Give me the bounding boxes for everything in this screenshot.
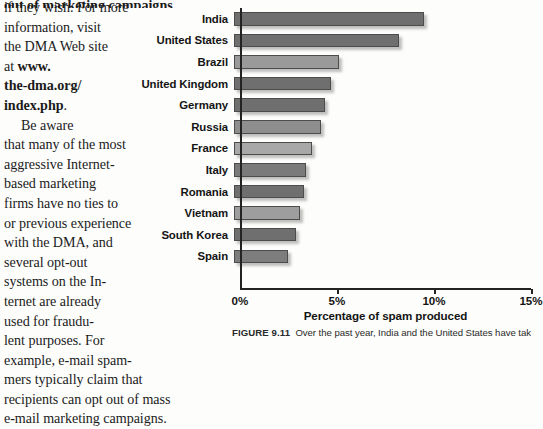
bar-track (234, 8, 531, 30)
bar-track (234, 94, 531, 116)
body-text-line: lent purposes. For (4, 331, 228, 351)
chart-bar-row: Romania (126, 181, 531, 203)
bar-track (234, 246, 531, 268)
chart-bar-row: Vietnam (126, 202, 531, 224)
chart-bar-row: France (126, 138, 531, 160)
x-axis-tick-label: 15% (519, 294, 542, 307)
bar (234, 163, 306, 177)
chart-bar-row: United Kingdom (126, 73, 531, 95)
bar (234, 98, 325, 112)
bar-track (234, 202, 531, 224)
bar-category-label: France (126, 142, 234, 154)
bar (234, 228, 296, 242)
x-axis-tick-label: 5% (329, 294, 346, 307)
chart-bar-row: Spain (126, 246, 531, 268)
bar-category-label: United States (126, 34, 234, 46)
bar-track (234, 116, 531, 138)
bar-track (234, 73, 531, 95)
bar (234, 142, 312, 156)
bar (234, 12, 424, 26)
bar-category-label: Vietnam (126, 207, 234, 219)
chart-bar-row: India (126, 8, 531, 30)
chart-bar-row: South Korea (126, 224, 531, 246)
x-axis-tick-label: 10% (422, 294, 445, 307)
bar (234, 77, 331, 91)
bar (234, 55, 339, 69)
bar-category-label: Italy (126, 164, 234, 176)
bar-category-label: Germany (126, 99, 234, 111)
bar (234, 206, 300, 220)
chart-bar-row: Italy (126, 159, 531, 181)
body-text-bold: www. (18, 58, 51, 74)
chart-bar-row: Russia (126, 116, 531, 138)
bar (234, 185, 304, 199)
bar-track (234, 181, 531, 203)
bar (234, 34, 399, 48)
body-text-line: e-mail marketing campaigns. (4, 409, 228, 429)
x-axis-tick-label: 0% (232, 294, 249, 307)
bar-track (234, 224, 531, 246)
bar-track (234, 138, 531, 160)
chart-bar-row: Germany (126, 94, 531, 116)
chart-rows: IndiaUnited StatesBrazilUnited KingdomGe… (126, 8, 531, 267)
bar-track (234, 51, 531, 73)
bar (234, 250, 288, 264)
body-text-plain: . (63, 97, 66, 113)
spam-bar-chart: IndiaUnited StatesBrazilUnited KingdomGe… (126, 8, 531, 308)
body-text-plain: at (4, 58, 18, 74)
y-axis-line (240, 8, 242, 289)
figure-caption-text: Over the past year, India and the United… (295, 327, 531, 338)
body-text-bold: index.php (4, 97, 63, 113)
bar-track (234, 30, 531, 52)
chart-bar-row: Brazil (126, 51, 531, 73)
x-axis-line (240, 288, 531, 290)
bar-category-label: Spain (126, 250, 234, 262)
bar-category-label: Brazil (126, 56, 234, 68)
bar-track (234, 159, 531, 181)
bar-category-label: Russia (126, 121, 234, 133)
bar-category-label: United Kingdom (126, 78, 234, 90)
body-text-line: used for fraudu- (4, 312, 228, 332)
body-text-line: mers typically claim that (4, 370, 228, 390)
chart-bar-row: United States (126, 30, 531, 52)
figure-number: FIGURE 9.11 (232, 327, 290, 338)
x-axis-title: Percentage of spam produced (240, 309, 531, 322)
body-text-line: example, e-mail spam- (4, 351, 228, 371)
body-text-bold: the-dma.org/ (4, 77, 81, 93)
bar (234, 120, 321, 134)
body-text-line: recipients can opt out of mass (4, 390, 228, 410)
bar-category-label: South Korea (126, 229, 234, 241)
bar-category-label: Romania (126, 186, 234, 198)
bar-category-label: India (126, 13, 234, 25)
figure-caption: FIGURE 9.11 Over the past year, India an… (232, 327, 531, 341)
